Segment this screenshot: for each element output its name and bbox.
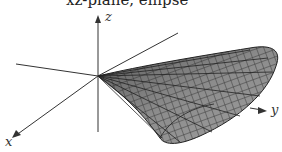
y-axis-label: y xyxy=(271,102,278,117)
z-axis-label: z xyxy=(105,9,112,24)
z-arrow-icon xyxy=(95,15,101,23)
surface-figure xyxy=(0,0,282,152)
y-arrow-icon xyxy=(258,107,267,114)
x-axis-label: x xyxy=(5,134,12,149)
x-arrow-icon xyxy=(12,130,21,138)
